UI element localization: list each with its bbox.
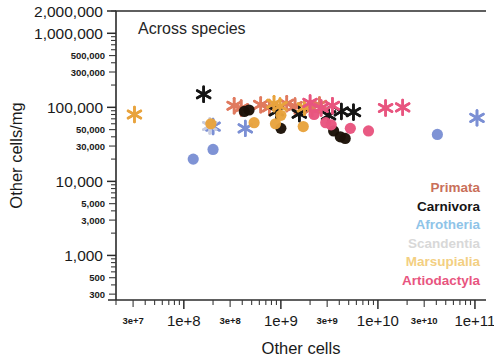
- y-tick-label: 300,000: [71, 67, 105, 78]
- data-point-afrotheria: [207, 144, 218, 155]
- data-point-artiodactyla-filled: [308, 109, 319, 120]
- data-point-carnivora: [197, 87, 210, 102]
- y-tick-label: 10,000: [56, 173, 104, 190]
- data-point-marsupialia-filled: [205, 118, 216, 129]
- x-tick-label: 3e+8: [219, 315, 240, 326]
- y-tick-label: 500: [89, 272, 105, 283]
- figure-root: 2,000,0001,000,000100,00010,0001,000500,…: [0, 0, 494, 364]
- legend-entry-carnivora: Carnivora: [417, 199, 481, 214]
- x-tick-label: 3e+7: [122, 315, 143, 326]
- data-point-artiodactyla-filled: [363, 125, 374, 136]
- legend-entry-scandentia: Scandentia: [408, 236, 481, 251]
- x-tick-label: 1e+10: [357, 312, 399, 329]
- y-tick-label: 5,000: [81, 198, 105, 209]
- legend-entry-afrotheria: Afrotheria: [415, 217, 480, 232]
- data-point-artiodactyla: [379, 101, 392, 116]
- data-point-artiodactyla-filled: [345, 123, 356, 134]
- y-tick-label: 3,000: [81, 215, 105, 226]
- x-tick-label: 3e+10: [411, 315, 438, 326]
- data-point-afrotheria-star: [471, 110, 484, 125]
- data-point-carnivora: [347, 105, 360, 120]
- panel-title: Across species: [138, 20, 246, 37]
- y-tick-label: 100,000: [47, 99, 103, 116]
- y-tick-label: 50,000: [76, 124, 105, 135]
- y-tick-label: 1,000,000: [34, 25, 103, 42]
- y-tick-label: 2,000,000: [34, 3, 103, 20]
- data-point-carnivora-filled: [340, 133, 351, 144]
- data-point-marsupialia-filled: [298, 121, 309, 132]
- y-tick-label: 1,000: [64, 247, 103, 264]
- x-tick-label: 3e+9: [316, 315, 337, 326]
- data-point-carnivora: [335, 104, 348, 119]
- data-point-artiodactyla-filled: [326, 119, 337, 130]
- data-point-carnivora-filled: [243, 104, 254, 115]
- legend-entry-primata: Primata: [430, 180, 480, 195]
- data-point-afrotheria: [432, 129, 443, 140]
- x-tick-label: 1e+8: [167, 312, 201, 329]
- legend-entry-artiodactyla: Artiodactyla: [402, 273, 481, 288]
- data-point-artiodactyla: [396, 100, 409, 115]
- x-tick-label: 1e+11: [454, 312, 494, 329]
- scatter-plot: 2,000,0001,000,000100,00010,0001,000500,…: [0, 0, 494, 364]
- data-point-marsupialia-filled: [275, 110, 286, 121]
- data-point-afrotheria: [188, 153, 199, 164]
- y-tick-label: 300: [89, 289, 105, 300]
- y-axis-title: Other cells/mg: [7, 102, 25, 208]
- y-tick-label: 500,000: [71, 50, 105, 61]
- x-axis-title: Other cells: [262, 339, 341, 357]
- data-point-marsupialia: [128, 107, 141, 122]
- x-tick-label: 1e+9: [264, 312, 298, 329]
- y-tick-label: 30,000: [76, 141, 105, 152]
- data-point-marsupialia-filled: [249, 117, 260, 128]
- legend-entry-marsupialia: Marsupialia: [406, 254, 481, 269]
